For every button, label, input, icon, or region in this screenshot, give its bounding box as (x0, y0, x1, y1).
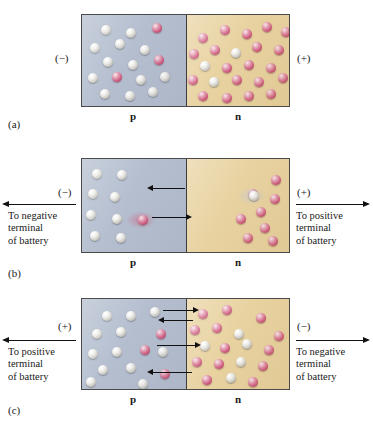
electron-carrier (220, 25, 230, 35)
electron-carrier (190, 325, 200, 335)
polarity-left-c: (+) (58, 320, 72, 332)
hole-carrier (200, 61, 210, 71)
hole-carrier (86, 210, 96, 220)
hole-carrier (209, 77, 219, 87)
electron-carrier (152, 23, 162, 33)
polarity-right-b: (+) (297, 186, 311, 198)
polarity-left-a: (−) (55, 52, 69, 64)
electron-carrier (154, 55, 164, 65)
electron-carrier (236, 214, 246, 224)
electron-carrier (266, 89, 276, 99)
hole-carrier (112, 214, 122, 224)
electron-carrier (192, 357, 202, 367)
electron-carrier (256, 313, 266, 323)
p-label-b: p (113, 256, 153, 268)
hole-carrier (116, 327, 126, 337)
junction-arrow-c-1 (163, 310, 193, 311)
p-region-a (82, 15, 186, 106)
hole-carrier (116, 233, 126, 243)
junction-arrow-c-2 (163, 320, 193, 321)
electron-carrier (274, 45, 284, 55)
hole-carrier (117, 170, 127, 180)
junction-divider-a (186, 15, 187, 106)
lead-arrow-right-c (296, 340, 364, 341)
electron-carrier (140, 345, 150, 355)
n-label-c: n (218, 393, 258, 405)
electron-carrier (256, 207, 266, 217)
junction-box-c (81, 298, 290, 390)
terminal-text-right-c: To negative terminal of battery (296, 346, 372, 383)
hole-carrier (200, 341, 210, 351)
junction-box-b (81, 158, 290, 253)
p-label-c: p (113, 393, 153, 405)
sublabel-c: (c) (8, 404, 20, 416)
p-region-c (82, 299, 186, 389)
electron-carrier (232, 75, 242, 85)
junction-arrow-c-3 (157, 345, 195, 346)
hole-carrier (98, 365, 108, 375)
lead-arrow-left-b (8, 204, 76, 205)
junction-divider-b (186, 159, 187, 252)
lead-arrow-left-c (8, 340, 76, 341)
electron-carrier (220, 343, 230, 353)
hole-carrier (90, 231, 100, 241)
junction-arrow-c-4 (152, 372, 192, 373)
polarity-right-a: (+) (297, 52, 311, 64)
electron-carrier (222, 305, 232, 315)
hole-carrier (150, 307, 160, 317)
electron-carrier (260, 223, 270, 233)
hole-carrier (231, 48, 241, 58)
junction-divider-c (186, 299, 187, 389)
junction-box-a (81, 14, 290, 107)
electron-carrier-moving (138, 215, 148, 225)
terminal-text-right-b: To positive terminal of battery (296, 210, 372, 247)
hole-carrier (110, 192, 120, 202)
hole-carrier (126, 311, 136, 321)
electron-carrier (266, 63, 276, 73)
hole-carrier (92, 329, 102, 339)
junction-arrow-b-1 (152, 188, 185, 189)
hole-carrier (86, 377, 96, 387)
hole-carrier (112, 347, 122, 357)
hole-carrier (88, 349, 98, 359)
n-region-c (186, 299, 289, 389)
electron-carrier (189, 49, 199, 59)
electron-carrier (160, 369, 170, 379)
hole-carrier (140, 45, 150, 55)
lead-arrow-right-b (296, 204, 364, 205)
electron-carrier (188, 75, 198, 85)
terminal-text-left-b: To negative terminal of battery (8, 210, 84, 247)
p-label-a: p (113, 110, 153, 122)
sublabel-a: (a) (8, 118, 20, 130)
hole-carrier (226, 373, 236, 383)
junction-arrow-b-2 (152, 217, 186, 218)
hole-carrier-moving (249, 191, 259, 201)
polarity-right-c: (−) (297, 320, 311, 332)
hole-carrier (236, 357, 246, 367)
electron-carrier (244, 91, 254, 101)
hole-carrier (126, 363, 136, 373)
n-label-b: n (218, 256, 258, 268)
electron-carrier (262, 22, 272, 32)
electron-carrier (202, 375, 212, 385)
hole-carrier (160, 72, 170, 82)
hole-carrier (126, 28, 136, 38)
electron-carrier (258, 361, 268, 371)
electron-carrier (198, 33, 208, 43)
electron-carrier (198, 91, 208, 101)
hole-carrier (128, 60, 138, 70)
hole-carrier (103, 57, 113, 67)
electron-carrier (198, 309, 208, 319)
polarity-left-b: (−) (58, 186, 72, 198)
p-region-b (82, 159, 186, 252)
electron-carrier (156, 329, 166, 339)
electron-carrier (278, 73, 288, 83)
hole-carrier (136, 75, 146, 85)
electron-carrier (248, 377, 258, 387)
n-region-a (186, 15, 289, 106)
hole-carrier (138, 379, 148, 389)
hole-carrier (148, 87, 158, 97)
electron-carrier (254, 77, 264, 87)
electron-carrier (242, 29, 252, 39)
electron-carrier (244, 60, 254, 70)
